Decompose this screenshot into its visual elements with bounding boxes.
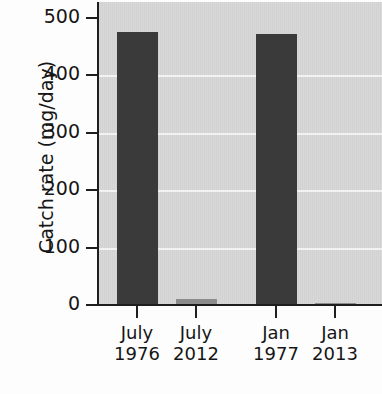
x-tick-label-line: 2013 [290,343,380,364]
bar-chart-figure: Catch rate (mg/day) 0100200300400500 Jul… [0,0,382,394]
x-tick-0 [136,306,138,318]
y-tick-label-0: 0 [68,292,80,314]
plot-area [99,2,382,305]
x-axis-line [97,304,382,306]
x-tick-1 [195,306,197,318]
y-axis-line [97,2,99,306]
x-tick-label-line: Jan [290,322,380,343]
x-tick-label-july-2012: July2012 [151,322,241,364]
bar-july-1976 [117,32,158,305]
y-tick-400 [86,74,97,76]
x-tick-label-line: July [151,322,241,343]
x-tick-label-jan-2013: Jan2013 [290,322,380,364]
y-tick-500 [86,17,97,19]
y-tick-0 [86,304,97,306]
y-tick-label-300: 300 [44,120,80,142]
y-tick-100 [86,247,97,249]
y-tick-label-200: 200 [44,177,80,199]
x-tick-3 [334,306,336,318]
y-tick-300 [86,132,97,134]
x-tick-2 [275,306,277,318]
bar-jan-1977 [256,34,297,306]
y-tick-label-100: 100 [44,235,80,257]
y-tick-label-500: 500 [44,5,80,27]
x-tick-label-line: 2012 [151,343,241,364]
y-tick-200 [86,189,97,191]
y-tick-label-400: 400 [44,62,80,84]
